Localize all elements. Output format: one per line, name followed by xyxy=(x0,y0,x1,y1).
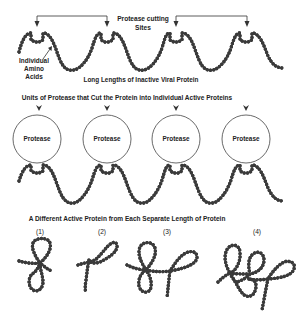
protein-label-1: (1) xyxy=(36,229,44,236)
active-protein-1 xyxy=(19,239,52,291)
protease-arrows xyxy=(36,105,249,111)
protein-label-2: (2) xyxy=(98,229,106,236)
protease-label-4: Protease xyxy=(233,136,260,142)
protease-section-title: Units of Protease that Cut the Protein i… xyxy=(22,95,232,102)
active-protein-2 xyxy=(78,242,117,293)
inactive-protein-label: Long Lengths of Inactive Viral Protein xyxy=(84,77,199,83)
active-proteins-title: A Different Active Protein from Each Sep… xyxy=(29,216,226,223)
protease-label-3: Protease xyxy=(163,136,190,142)
cutting-site-bracket-left xyxy=(35,16,110,27)
diagram-graphics xyxy=(0,0,298,329)
active-protein-4 xyxy=(218,245,294,310)
protein-label-4: (4) xyxy=(253,229,261,236)
amino-acids-label-line2: Amino xyxy=(24,66,44,72)
protease-label-1: Protease xyxy=(24,136,51,142)
bound-protein-chain xyxy=(19,165,283,203)
cutting-sites-label-line2: Sites xyxy=(135,25,151,32)
protease-label-2: Protease xyxy=(94,136,121,142)
protein-label-3: (3) xyxy=(163,229,171,236)
active-protein-3 xyxy=(127,243,197,298)
amino-acids-label-line1: Individual xyxy=(19,58,49,64)
cutting-sites-label-line1: Protease cutting xyxy=(117,16,169,23)
inactive-protein-chain xyxy=(19,33,283,70)
cutting-site-bracket-right xyxy=(174,16,250,27)
amino-acids-label-line3: Acids xyxy=(25,74,42,80)
